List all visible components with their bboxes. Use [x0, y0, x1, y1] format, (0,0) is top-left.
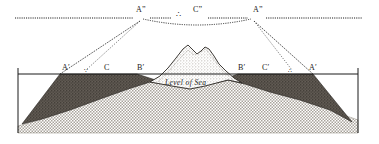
former-surface-dotted-line: [15, 18, 362, 25]
label-a-prime-left: A′: [62, 63, 70, 72]
label-c-prime-right: C′: [262, 63, 270, 72]
label-c-double-prime: Cˮ: [193, 5, 202, 14]
label-b-prime-right: B′: [238, 63, 246, 72]
label-b-prime-left: B′: [137, 63, 145, 72]
label-level-of-sea: Level of Sea: [165, 78, 206, 87]
cross-section-drawing: [0, 0, 379, 144]
label-c-left: C: [104, 63, 110, 72]
label-a-double-prime-right: Aˮ: [253, 5, 263, 14]
label-tick-left: ∵: [84, 66, 88, 73]
label-a-double-prime-left: Aˮ: [136, 5, 146, 14]
label-c-double-prime-mark: ∴: [176, 10, 181, 19]
label-a-prime-right: A′: [309, 63, 317, 72]
geological-cross-section-figure: Aˮ ∴ Cˮ Aˮ A′ ∵ C B′ B′ C′ ∴ A′ Level of…: [0, 0, 379, 144]
label-tick-right: ∴: [288, 66, 292, 73]
